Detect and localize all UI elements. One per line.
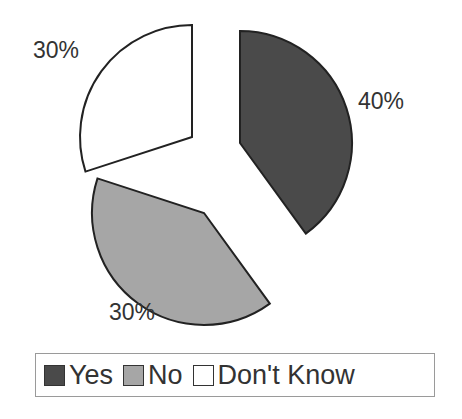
- swatch-yes-icon: [44, 365, 65, 386]
- label-dont-know: 30%: [33, 37, 79, 64]
- slice-yes: [240, 31, 352, 234]
- slice-dont-know: [80, 25, 192, 172]
- legend: Yes No Don't Know: [35, 353, 435, 397]
- swatch-no-icon: [123, 365, 144, 386]
- legend-item-dont-know: Don't Know: [193, 360, 355, 391]
- swatch-dont-know-icon: [193, 365, 214, 386]
- label-no: 30%: [109, 299, 155, 326]
- legend-item-no: No: [123, 360, 183, 391]
- legend-label-yes: Yes: [69, 360, 113, 391]
- label-yes: 40%: [358, 88, 404, 115]
- legend-label-no: No: [148, 360, 183, 391]
- legend-item-yes: Yes: [44, 360, 113, 391]
- legend-label-dont-know: Don't Know: [218, 360, 355, 391]
